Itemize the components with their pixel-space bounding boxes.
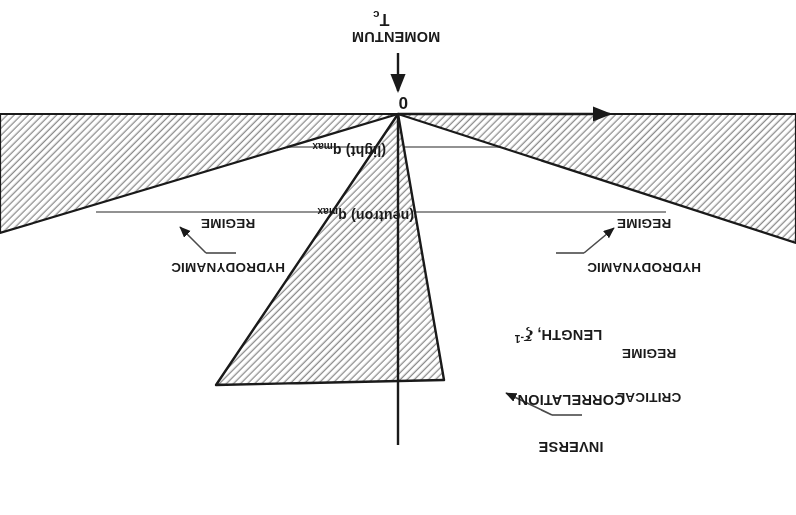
figure-root: INVERSE CORRELATION LENGTH, ξ-1 MOMENTUM… (0, 0, 796, 515)
tc-symbol: T (379, 11, 389, 28)
hydrodynamic-regime-left-line2: REGIME (554, 216, 734, 231)
hydrodynamic-regime-right-line1: HYDRODYNAMIC (138, 259, 318, 274)
critical-regime-line1: CRITICAL (574, 389, 724, 404)
qmax-light-label: (light) qmax (146, 140, 386, 158)
xi-exponent: -1 (514, 333, 524, 344)
origin-label: 0 (398, 93, 408, 111)
xi-symbol: ξ (524, 327, 533, 344)
hydrodynamic-regime-left-label: HYDRODYNAMIC REGIME (554, 186, 734, 303)
critical-regime-line2: REGIME (574, 346, 724, 361)
tc-label: Tc (373, 0, 408, 45)
qmax-neutron-paren: (neutron) (351, 208, 414, 224)
qmax-light-subscript: max (312, 141, 333, 152)
qmax-neutron-subscript: max (317, 206, 338, 217)
hydrodynamic-regime-right-line2: REGIME (138, 216, 318, 231)
critical-regime-label: CRITICAL REGIME (574, 316, 724, 433)
qmax-light-paren: (light) (346, 143, 386, 159)
hydrodynamic-regime-left-line1: HYDRODYNAMIC (554, 259, 734, 274)
qmax-light-symbol: q (333, 143, 342, 159)
y-axis-title-line1: INVERSE (456, 438, 686, 454)
hydrodynamic-regime-right-label: HYDRODYNAMIC REGIME (138, 186, 318, 303)
qmax-neutron-symbol: q (338, 208, 347, 224)
tc-subscript: c (373, 8, 380, 20)
